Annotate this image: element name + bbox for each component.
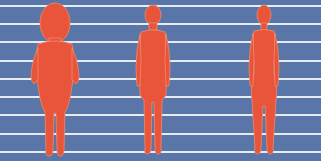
boy-silhouette [136, 5, 170, 154]
girl-silhouette [249, 5, 279, 154]
height-chart-panel [0, 0, 321, 161]
overweight-child-silhouette [31, 3, 79, 156]
figures-svg [0, 0, 321, 161]
